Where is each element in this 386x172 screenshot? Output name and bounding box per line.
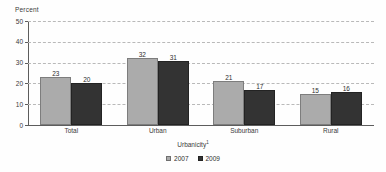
bar-value-label: 17 [256,83,263,90]
y-tick-mark [25,104,28,105]
legend-label: 2009 [206,155,220,162]
y-tick-mark [25,21,28,22]
y-tick-label: 20 [1,80,23,87]
bar-value-label: 23 [52,70,59,77]
bar-urban-2009: 31 [158,61,189,125]
y-tick-mark [25,63,28,64]
y-tick-mark [25,83,28,84]
chart-legend: 20072009 [0,155,386,162]
legend-label: 2007 [174,155,188,162]
y-tick-label: 30 [1,59,23,66]
y-tick-mark [25,42,28,43]
x-tick-label-rural: Rural [323,127,339,134]
x-tick-label-total: Total [64,127,78,134]
plot-area: 2320323121171516 [28,21,374,125]
bar-value-label: 31 [170,54,177,61]
bar-suburban-2007: 21 [213,81,244,125]
y-tick-label: 50 [1,18,23,25]
bar-value-label: 15 [312,87,319,94]
bar-total-2007: 23 [40,77,71,125]
legend-item-2009[interactable]: 2009 [198,155,220,162]
bar-value-label: 21 [225,74,232,81]
y-axis-title: Percent [15,6,39,13]
x-axis-title: Urbanicity1 [0,140,386,148]
y-axis-line [28,21,29,125]
bar-value-label: 20 [83,76,90,83]
x-tick-label-urban: Urban [149,127,167,134]
legend-item-2007[interactable]: 2007 [166,155,188,162]
legend-swatch-icon [166,156,171,161]
bar-urban-2007: 32 [127,58,158,125]
bar-rural-2007: 15 [300,94,331,125]
x-axis-footnote-marker: 1 [206,140,209,145]
x-axis-baseline [28,125,374,126]
bar-value-label: 16 [343,85,350,92]
gridline [28,21,374,22]
legend-swatch-icon [198,156,203,161]
y-tick-label: 10 [1,101,23,108]
chart-figure: Percent 2320323121171516 Urbanicity1 200… [0,0,386,172]
bar-total-2009: 20 [71,83,102,125]
gridline [28,63,374,64]
x-axis-title-text: Urbanicity [177,141,206,148]
bar-value-label: 32 [139,51,146,58]
bar-rural-2009: 16 [331,92,362,125]
gridline [28,42,374,43]
y-tick-label: 0 [1,122,23,129]
y-tick-mark [25,125,28,126]
bar-suburban-2009: 17 [244,90,275,125]
y-tick-label: 40 [1,38,23,45]
x-tick-label-suburban: Suburban [230,127,258,134]
